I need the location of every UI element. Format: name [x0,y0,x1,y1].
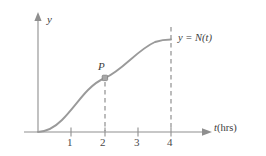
x-axis-label: t(hrs) [214,123,237,134]
x-axis-arrowhead-icon [202,128,212,136]
x-axis-label-units: (hrs) [217,122,237,133]
tick-label-4: 4 [167,137,173,148]
x-axis [24,128,212,136]
tick-label-3: 3 [134,137,140,148]
y-axis [34,12,41,132]
y-axis-arrowhead-icon [34,12,41,21]
logistic-growth-figure: y t(hrs) y = N(t) P 1 2 3 4 [0,0,266,156]
y-axis-label: y [47,14,52,25]
tick-label-1: 1 [67,137,73,148]
point-label-p: P [98,61,105,72]
point-marker-p [102,75,107,80]
curve-equation-label: y = N(t) [178,33,212,44]
tick-label-2: 2 [100,137,106,148]
